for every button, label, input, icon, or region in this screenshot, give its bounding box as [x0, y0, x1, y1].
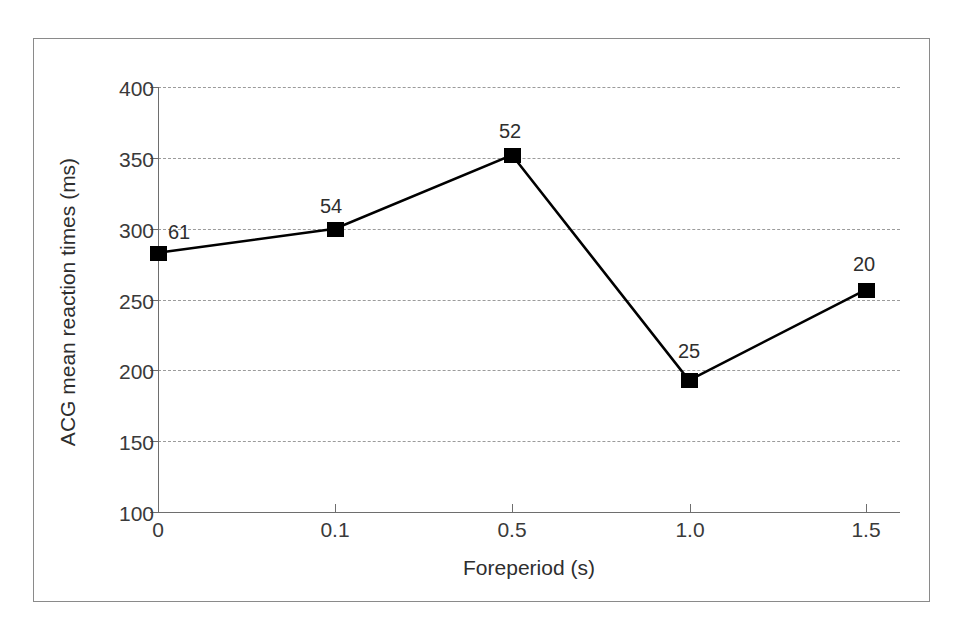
- figure-frame: [33, 38, 930, 602]
